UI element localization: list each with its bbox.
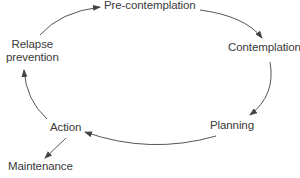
arrow-planning-to-action xyxy=(85,132,216,145)
node-maintenance: Maintenance xyxy=(8,160,73,173)
arrow-contemplation-to-planning xyxy=(250,62,271,115)
node-precontemplation: Pre-contemplation xyxy=(104,0,196,12)
node-action: Action xyxy=(50,121,81,134)
relapse-label-line2: prevention xyxy=(6,51,59,64)
node-relapse-prevention: Relapse prevention xyxy=(6,38,59,64)
arrow-action-to-maintenance xyxy=(45,138,66,158)
arrow-action-to-relapse xyxy=(24,70,47,119)
node-contemplation: Contemplation xyxy=(228,41,300,54)
node-planning: Planning xyxy=(210,119,254,132)
relapse-label-line1: Relapse xyxy=(6,38,59,51)
arrow-precontemplation-to-contemplation xyxy=(200,10,262,38)
cycle-arrows xyxy=(0,0,300,178)
arrow-relapse-to-precontemplation xyxy=(40,7,100,35)
